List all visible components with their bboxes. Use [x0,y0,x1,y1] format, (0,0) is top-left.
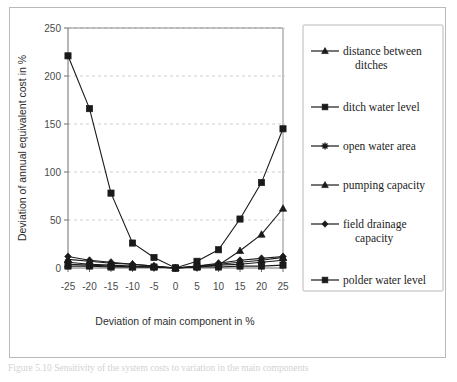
x-tick-label: 15 [234,281,246,292]
x-tick-label: -5 [150,281,159,292]
x-tick-label: -20 [82,281,97,292]
data-point-square-marker [215,264,221,270]
data-point-square-marker [151,264,157,270]
data-point-square-marker [322,277,328,283]
axes-group [64,28,283,272]
data-point-square-marker [258,263,264,269]
data-point-square-marker [258,179,264,185]
legend-label: pumping capacity [343,179,425,192]
data-point-square-marker [86,106,92,112]
axis-lines [68,28,283,268]
x-tick-label: 10 [213,281,225,292]
legend-label-continued: ditches [355,59,388,71]
data-point-square-marker [322,104,328,110]
x-tick-label: 5 [194,281,200,292]
legend-label: polder water level [343,274,426,287]
data-point-triangle-marker [236,247,243,254]
data-point-diamond-marker [65,253,72,260]
data-point-square-marker [280,126,286,132]
legend-label: open water area [343,140,416,153]
series-line [68,56,283,268]
legend-label-continued: capacity [355,232,394,245]
legend-label: ditch water level [343,101,420,113]
y-tick-labels-group: 050100150200250 [44,23,61,274]
data-point-star-marker [322,143,329,150]
data-point-triangle-marker [279,205,286,212]
y-tick-label: 0 [55,263,61,274]
figure-container: 050100150200250 -25-20-15-10-50510152025… [0,0,457,382]
legend-label: field drainage [343,218,407,231]
data-point-square-marker [65,263,71,269]
data-point-square-marker [129,264,135,270]
data-point-square-marker [108,264,114,270]
y-axis-title: Deviation of annual equivalent cost in % [16,55,28,241]
x-tick-label: 20 [256,281,268,292]
data-point-square-marker [237,263,243,269]
y-tick-label: 150 [44,119,61,130]
data-point-square-marker [151,254,157,260]
x-axis-title: Deviation of main component in % [95,315,254,327]
x-tick-label: -15 [104,281,119,292]
data-point-square-marker [280,262,286,268]
figure-caption: Figure 5.10 Sensitivity of the system co… [8,362,453,374]
data-point-square-marker [108,190,114,196]
x-tick-labels-group: -25-20-15-10-50510152025 [61,281,289,292]
data-point-square-marker [86,263,92,269]
sensitivity-line-chart: 050100150200250 -25-20-15-10-50510152025… [0,0,457,382]
gridlines-group [68,28,285,220]
data-series-group [64,53,287,272]
data-point-square-marker [215,247,221,253]
x-tick-label: -10 [125,281,140,292]
y-tick-label: 200 [44,71,61,82]
legend-label: distance between [343,45,422,57]
y-tick-label: 50 [50,215,62,226]
data-point-square-marker [237,216,243,222]
x-tick-label: -25 [61,281,76,292]
y-tick-label: 100 [44,167,61,178]
x-tick-label: 0 [173,281,179,292]
data-point-square-marker [194,264,200,270]
data-point-square-marker [65,53,71,59]
y-tick-label: 250 [44,23,61,34]
data-point-square-marker [129,240,135,246]
plot-border [68,28,283,268]
legend-group: distance betweenditchesditch water level… [303,25,443,291]
data-point-square-marker [172,265,178,271]
series-ditch-water-level [65,53,286,271]
x-tick-label: 25 [277,281,289,292]
